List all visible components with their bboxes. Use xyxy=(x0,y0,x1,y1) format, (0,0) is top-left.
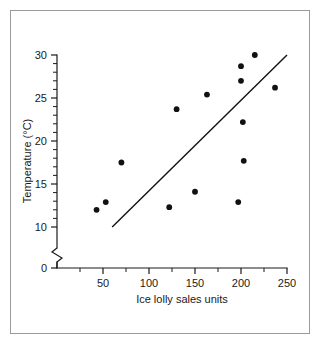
data-point xyxy=(240,119,246,125)
y-tick-label-10: 10 xyxy=(35,221,47,233)
y-axis-title: Temperature (°C) xyxy=(21,119,33,203)
y-tick-label-20: 20 xyxy=(35,135,47,147)
data-point xyxy=(94,207,100,213)
data-points xyxy=(94,52,278,213)
data-point xyxy=(252,52,258,58)
y-axis-major-ticks xyxy=(51,55,57,268)
y-tick-label-0: 0 xyxy=(41,262,47,274)
x-tick-label-150: 150 xyxy=(186,277,204,289)
scatter-plot: 30 25 20 15 10 0 50 100 150 200 250 xyxy=(0,0,320,344)
data-point xyxy=(238,63,244,69)
data-point xyxy=(192,189,198,195)
x-axis-tick-labels: 50 100 150 200 250 xyxy=(97,277,296,289)
axes xyxy=(52,55,287,268)
x-tick-label-200: 200 xyxy=(232,277,250,289)
x-tick-label-250: 250 xyxy=(278,277,296,289)
data-point xyxy=(174,106,180,112)
x-axis-major-ticks xyxy=(103,268,287,274)
y-tick-label-25: 25 xyxy=(35,92,47,104)
trend-line xyxy=(112,55,287,227)
data-point xyxy=(204,92,210,98)
x-tick-label-50: 50 xyxy=(97,277,109,289)
data-point xyxy=(166,204,172,210)
chart-canvas: 30 25 20 15 10 0 50 100 150 200 250 xyxy=(0,0,320,344)
data-point xyxy=(238,78,244,84)
y-axis-tick-labels: 30 25 20 15 10 0 xyxy=(35,49,47,274)
x-axis-title: Ice lolly sales units xyxy=(136,293,228,305)
data-point xyxy=(103,199,109,205)
data-point xyxy=(119,160,125,166)
data-point xyxy=(241,158,247,164)
x-tick-label-100: 100 xyxy=(140,277,158,289)
y-tick-label-30: 30 xyxy=(35,49,47,61)
data-point xyxy=(235,199,241,205)
data-point xyxy=(272,85,278,91)
y-tick-label-15: 15 xyxy=(35,178,47,190)
